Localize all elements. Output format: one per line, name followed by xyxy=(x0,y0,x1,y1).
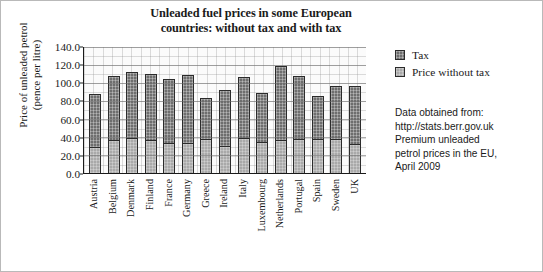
x-tick-column: Greece xyxy=(200,177,212,259)
legend-swatch-icon xyxy=(395,50,405,60)
bar-segment-tax[interactable] xyxy=(89,94,101,147)
bar-segment-price-without-tax[interactable] xyxy=(275,140,287,173)
y-axis-tick-labels: 0.020.040.060.080.0100.0120.0140.0 xyxy=(46,47,80,174)
y-tick-label: 0.0 xyxy=(66,169,80,180)
bar-column[interactable] xyxy=(126,72,138,173)
bar-column[interactable] xyxy=(330,86,342,173)
bar-segment-tax[interactable] xyxy=(293,76,305,140)
x-tick-column: UK xyxy=(349,177,361,259)
bar-segment-tax[interactable] xyxy=(275,66,287,140)
bar-column[interactable] xyxy=(256,93,268,173)
gridline-major xyxy=(84,47,366,48)
bar-segment-tax[interactable] xyxy=(163,79,175,143)
x-tick-label: Belgium xyxy=(108,179,118,214)
x-tick-column: France xyxy=(163,177,175,259)
bar-column[interactable] xyxy=(108,76,120,173)
source-annotation-line: April 2009 xyxy=(395,160,543,174)
bar-segment-tax[interactable] xyxy=(330,86,342,140)
source-annotation-line: Data obtained from: xyxy=(395,106,543,120)
y-axis-title-line-2: (pence per litre) xyxy=(30,0,43,151)
y-tick-label: 80.0 xyxy=(60,96,80,107)
bar-segment-price-without-tax[interactable] xyxy=(163,143,175,173)
x-tick-label: Austria xyxy=(89,179,99,209)
bar-segment-tax[interactable] xyxy=(238,77,250,138)
gridline-major xyxy=(84,101,366,102)
plot-area xyxy=(83,47,366,174)
gridline-major xyxy=(84,155,366,156)
bar-column[interactable] xyxy=(349,86,361,173)
source-annotation-line: Premium unleaded xyxy=(395,133,543,147)
x-tick-column: Denmark xyxy=(125,177,137,259)
x-tick-column: Italy xyxy=(237,177,249,259)
x-tick-column: Netherlands xyxy=(274,177,286,259)
bar-segment-tax[interactable] xyxy=(145,74,157,140)
x-tick-label: Spain xyxy=(312,179,322,202)
bar-segment-tax[interactable] xyxy=(312,96,324,139)
legend-label: Price without tax xyxy=(412,66,490,78)
x-tick-label: Netherlands xyxy=(275,179,285,228)
x-tick-label: Finland xyxy=(145,179,155,210)
bar-segment-price-without-tax[interactable] xyxy=(182,143,194,173)
bar-column[interactable] xyxy=(238,77,250,173)
x-tick-label: Portugal xyxy=(294,179,304,214)
plot-wrapper: 0.020.040.060.080.0100.0120.0140.0 Austr… xyxy=(46,47,368,188)
bar-segment-price-without-tax[interactable] xyxy=(219,146,231,173)
y-tick-label: 140.0 xyxy=(55,42,80,53)
chart-title-line-2: countries: without tax and with tax xyxy=(96,21,406,36)
x-tick-column: Ireland xyxy=(218,177,230,259)
x-tick-label: Germany xyxy=(182,179,192,217)
x-axis-tick-labels: AustriaBelgiumDenmarkFinlandFranceGerman… xyxy=(83,177,366,259)
gridline-major xyxy=(84,119,366,120)
gridline-major xyxy=(84,137,366,138)
source-annotation-line: petrol prices in the EU, xyxy=(395,147,543,161)
x-tick-column: Portugal xyxy=(293,177,305,259)
bar-segment-price-without-tax[interactable] xyxy=(145,140,157,173)
bar-column[interactable] xyxy=(145,74,157,173)
source-annotation: Data obtained from:http://stats.berr.gov… xyxy=(395,106,543,174)
x-tick-label: France xyxy=(164,179,174,207)
x-tick-column: Sweden xyxy=(330,177,342,259)
x-tick-label: Denmark xyxy=(126,179,136,217)
bar-segment-tax[interactable] xyxy=(349,86,361,144)
chart-title: Unleaded fuel prices in some European co… xyxy=(96,6,406,35)
x-tick-column: Germany xyxy=(181,177,193,259)
bar-segment-tax[interactable] xyxy=(182,75,194,143)
bar-column[interactable] xyxy=(312,96,324,173)
x-tick-column: Belgium xyxy=(107,177,119,259)
chart-page: Unleaded fuel prices in some European co… xyxy=(0,0,543,272)
bar-column[interactable] xyxy=(219,90,231,173)
x-tick-column: Spain xyxy=(311,177,323,259)
x-tick-label: Sweden xyxy=(331,179,341,211)
x-tick-label: Ireland xyxy=(219,179,229,208)
gridline-major xyxy=(84,65,366,66)
legend-swatch-icon xyxy=(395,67,405,77)
x-tick-label: Luxembourg xyxy=(257,179,267,231)
y-tick-label: 20.0 xyxy=(60,150,80,161)
bar-column[interactable] xyxy=(293,76,305,173)
bar-column[interactable] xyxy=(163,79,175,173)
x-tick-label: Italy xyxy=(238,179,248,198)
y-axis-title: Price of unleaded petrol (pence per litr… xyxy=(17,0,43,151)
bar-segment-price-without-tax[interactable] xyxy=(89,147,101,173)
y-axis-title-line-1: Price of unleaded petrol xyxy=(17,22,29,127)
bar-column[interactable] xyxy=(182,75,194,173)
legend-label: Tax xyxy=(412,49,429,61)
chart-title-line-1: Unleaded fuel prices in some European xyxy=(150,6,351,20)
bar-segment-tax[interactable] xyxy=(108,76,120,140)
y-tick-label: 40.0 xyxy=(60,132,80,143)
bar-segment-price-without-tax[interactable] xyxy=(108,140,120,173)
bar-segment-price-without-tax[interactable] xyxy=(256,142,268,173)
y-tick-label: 120.0 xyxy=(55,60,80,71)
x-tick-column: Finland xyxy=(144,177,156,259)
legend-item[interactable]: Tax xyxy=(395,49,540,61)
x-tick-label: Greece xyxy=(201,179,211,208)
source-annotation-line: http://stats.berr.gov.uk xyxy=(395,120,543,134)
chart-legend: TaxPrice without tax xyxy=(395,49,540,83)
bar-column[interactable] xyxy=(89,94,101,173)
y-tick-label: 60.0 xyxy=(60,114,80,125)
x-tick-column: Austria xyxy=(88,177,100,259)
legend-item[interactable]: Price without tax xyxy=(395,66,540,78)
bar-column[interactable] xyxy=(200,98,212,173)
bar-segment-price-without-tax[interactable] xyxy=(349,144,361,173)
x-tick-column: Luxembourg xyxy=(256,177,268,259)
